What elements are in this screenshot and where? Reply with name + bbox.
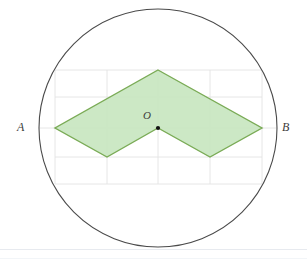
geometry-figure: A B O [0,0,307,262]
figure-canvas [0,0,307,262]
point-label-b: B [282,121,289,133]
center-point-dot [156,126,160,130]
shaded-chevron-polygon [55,70,262,157]
scan-artifact-line [0,258,307,259]
point-label-a: A [17,121,24,133]
scan-artifact-line [0,249,307,250]
point-label-o: O [143,110,151,121]
